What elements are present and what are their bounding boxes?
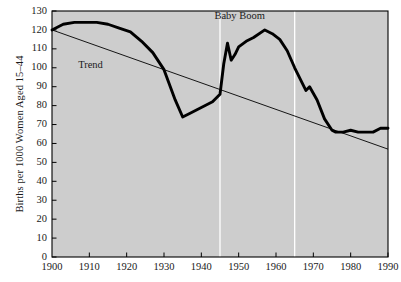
x-tick-label-1900: 1900 [32,262,72,273]
x-tick-label-1930: 1930 [144,262,184,273]
y-tick-label-90: 90 [25,81,47,92]
x-tick-label-1960: 1960 [256,262,296,273]
y-tick-label-80: 80 [25,100,47,111]
y-tick-label-30: 30 [25,195,47,206]
y-tick-label-10: 10 [25,233,47,244]
y-tick-label-20: 20 [25,214,47,225]
baby-boom-annotation-label: Baby Boom [214,11,264,22]
x-tick-label-1990: 1990 [368,262,401,273]
x-tick-label-1950: 1950 [219,262,259,273]
birth-rate-chart-figure: Births per 1000 Women Aged 15–44 0102030… [0,0,401,282]
x-tick-label-1920: 1920 [107,262,147,273]
y-tick-label-120: 120 [25,25,47,36]
y-axis-title: Births per 1000 Women Aged 15–44 [15,11,26,257]
x-tick-label-1940: 1940 [181,262,221,273]
chart-canvas [0,0,401,282]
x-tick-label-1910: 1910 [69,262,109,273]
y-tick-label-60: 60 [25,138,47,149]
y-tick-label-50: 50 [25,157,47,168]
y-tick-label-130: 130 [25,6,47,17]
y-tick-label-40: 40 [25,176,47,187]
y-tick-label-110: 110 [25,43,47,54]
trend-annotation-label: Trend [78,60,103,71]
x-tick-label-1970: 1970 [293,262,333,273]
y-tick-label-70: 70 [25,119,47,130]
x-tick-label-1980: 1980 [331,262,371,273]
y-tick-label-100: 100 [25,62,47,73]
